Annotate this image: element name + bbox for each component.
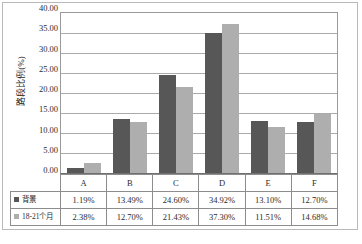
legend-label-series2: 18-21个月 — [22, 212, 54, 221]
bar-series1 — [251, 121, 268, 173]
bar-group-a — [61, 13, 107, 173]
category-header: B — [107, 175, 153, 192]
chart-data-table: A B C D E F 背景 1.19% 13.49% 24.60% 34.92… — [10, 174, 338, 226]
bar-series2 — [130, 122, 147, 173]
table-cell: 13.49% — [107, 192, 153, 209]
table-cell: 11.51% — [245, 209, 291, 226]
table-row-categories: A B C D E F — [11, 175, 338, 192]
table-cell: 12.70% — [107, 209, 153, 226]
bar-group-e — [245, 13, 291, 173]
y-axis-title: 路段比例(%) — [16, 33, 26, 129]
table-corner-cell — [11, 175, 61, 192]
square-marker-dark-icon — [14, 197, 19, 202]
table-cell: 37.30% — [199, 209, 245, 226]
y-tick-label: 15.00 — [26, 105, 58, 114]
bar-series1 — [159, 75, 176, 173]
category-header: C — [153, 175, 199, 192]
table-cell: 24.60% — [153, 192, 199, 209]
square-marker-light-icon — [14, 214, 19, 219]
table-cell: 2.38% — [61, 209, 107, 226]
table-cell: 34.92% — [199, 192, 245, 209]
bar-series1 — [205, 33, 222, 173]
category-header: F — [291, 175, 337, 192]
bar-groups — [61, 13, 337, 173]
table-cell: 1.19% — [61, 192, 107, 209]
bar-group-b — [107, 13, 153, 173]
bar-group-f — [291, 13, 337, 173]
plot-area — [60, 12, 338, 174]
y-tick-label: 30.00 — [26, 44, 58, 53]
y-tick-label: 40.00 — [26, 4, 58, 13]
legend-entry-series1: 背景 — [11, 192, 61, 209]
bar-series2 — [222, 24, 239, 173]
category-header: E — [245, 175, 291, 192]
table-cell: 21.43% — [153, 209, 199, 226]
legend-label-series1: 背景 — [22, 195, 36, 204]
table-row: 背景 1.19% 13.49% 24.60% 34.92% 13.10% 12.… — [11, 192, 338, 209]
category-header: D — [199, 175, 245, 192]
table-row: 18-21个月 2.38% 12.70% 21.43% 37.30% 11.51… — [11, 209, 338, 226]
legend-entry-series2: 18-21个月 — [11, 209, 61, 226]
bar-chart-figure: 路段比例(%) 40.00 35.00 30.00 25.00 20.00 15… — [0, 0, 362, 244]
y-tick-label: 25.00 — [26, 64, 58, 73]
bar-series2 — [314, 114, 331, 173]
y-tick-label: 5.00 — [26, 145, 58, 154]
table-cell: 12.70% — [291, 192, 337, 209]
y-tick-label: 35.00 — [26, 24, 58, 33]
category-header: A — [61, 175, 107, 192]
bar-series1 — [297, 122, 314, 173]
y-tick-label: 10.00 — [26, 125, 58, 134]
bar-series1 — [113, 119, 130, 173]
bar-series1 — [67, 168, 84, 173]
bar-series2 — [84, 163, 101, 173]
y-axis-tick-labels: 40.00 35.00 30.00 25.00 20.00 15.00 10.0… — [26, 8, 58, 174]
bar-series2 — [176, 87, 193, 173]
bar-series2 — [268, 127, 285, 173]
table-cell: 14.68% — [291, 209, 337, 226]
y-tick-label: 20.00 — [26, 85, 58, 94]
bar-group-d — [199, 13, 245, 173]
bar-group-c — [153, 13, 199, 173]
table-cell: 13.10% — [245, 192, 291, 209]
